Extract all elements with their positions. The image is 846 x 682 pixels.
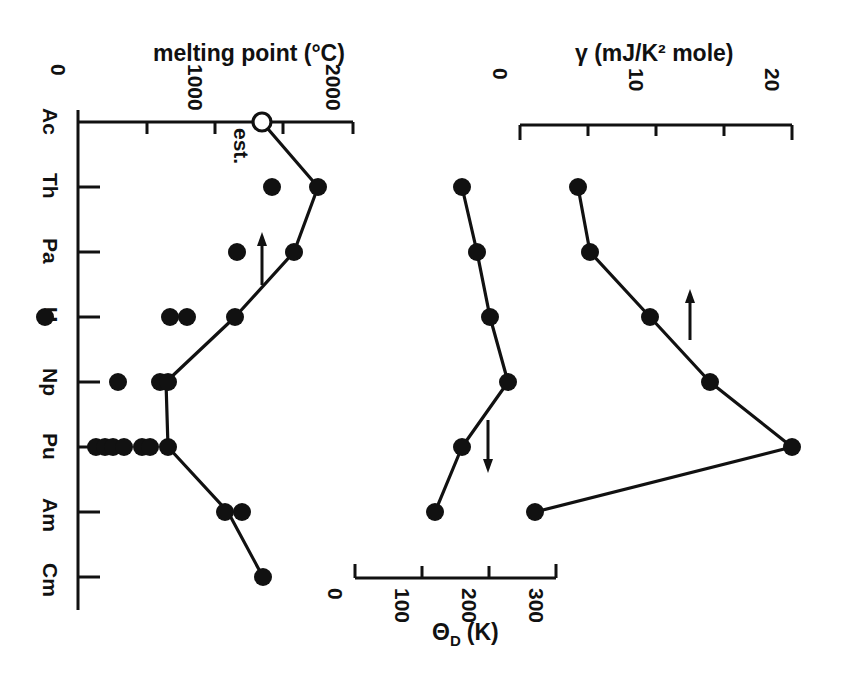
category-label-u: U xyxy=(38,307,62,322)
figure-canvas: Ac Th Pa U Np Pu Am Cm melting point (°C… xyxy=(0,0,846,682)
gamma-tick-10: 10 xyxy=(624,68,648,91)
thermal-properties-panel xyxy=(355,125,801,578)
estimated-annotation: est. xyxy=(229,128,253,164)
category-label-cm: Cm xyxy=(38,563,62,597)
melting-point-scatter-markers xyxy=(36,178,281,456)
gamma-tick-0: 0 xyxy=(488,68,512,80)
gamma-tick-20: 20 xyxy=(760,68,784,91)
gamma-axis-title: γ (mJ/K² mole) xyxy=(575,40,733,67)
category-label-np: Np xyxy=(38,368,62,396)
melting-point-tick-1000: 1000 xyxy=(183,64,207,111)
debye-temperature-curve xyxy=(435,187,508,512)
debye-axis-ticks xyxy=(355,564,556,578)
category-label-am: Am xyxy=(38,498,62,532)
melting-point-panel xyxy=(36,110,353,610)
trend-arrow-gamma xyxy=(685,289,695,340)
trend-arrow-debye xyxy=(483,420,493,473)
debye-unit-label: (K) xyxy=(467,619,499,645)
category-label-pa: Pa xyxy=(38,238,62,264)
category-ticks xyxy=(78,187,100,577)
category-label-th: Th xyxy=(38,173,62,199)
gamma-axis-ticks xyxy=(520,125,792,140)
debye-tick-200: 200 xyxy=(457,588,481,623)
category-label-pu: Pu xyxy=(38,433,62,460)
melting-point-tick-2000: 2000 xyxy=(321,64,345,111)
category-label-ac: Ac xyxy=(38,108,62,135)
debye-tick-300: 300 xyxy=(524,588,548,623)
debye-subscript: D xyxy=(450,632,461,649)
debye-axis-title: ΘD(K) xyxy=(432,619,499,649)
trend-arrow-melting-point xyxy=(257,232,267,285)
debye-theta-symbol: Θ xyxy=(432,619,450,645)
melting-point-tick-0: 0 xyxy=(46,64,70,76)
melting-point-curve-markers xyxy=(151,178,327,586)
datapoint-ac-estimated xyxy=(253,113,271,131)
chart-svg xyxy=(0,0,846,682)
melting-point-axis-title: melting point (°C) xyxy=(153,40,345,67)
debye-tick-0: 0 xyxy=(323,588,347,600)
gamma-markers xyxy=(526,178,801,521)
debye-tick-100: 100 xyxy=(390,588,414,623)
gamma-curve xyxy=(535,187,792,512)
